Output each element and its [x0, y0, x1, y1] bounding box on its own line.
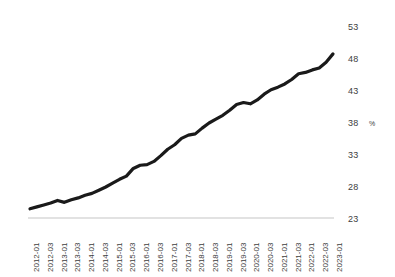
x-tick-label: 2018-03 [212, 243, 220, 272]
x-tick-label: 2014-03 [102, 243, 110, 272]
x-tick-label: 2016-03 [157, 243, 165, 272]
x-tick-label: 2019-03 [240, 243, 248, 272]
line-chart: 23283338434853 2012-012012-032013-012013… [0, 0, 395, 277]
x-tick-label: 2018-01 [198, 243, 206, 272]
x-tick-label: 2015-01 [116, 243, 124, 272]
x-tick-label: 2019-01 [226, 243, 234, 272]
x-axis: 2012-012012-032013-012013-032014-012014-… [0, 0, 395, 277]
x-tick-label: 2021-01 [281, 243, 289, 272]
x-tick-label: 2015-03 [129, 243, 137, 272]
x-tick-label: 2013-01 [61, 243, 69, 272]
x-tick-label: 2014-01 [88, 243, 96, 272]
x-tick-label: 2013-03 [74, 243, 82, 272]
x-tick-label: 2022-01 [308, 243, 316, 272]
x-tick-label: 2021-03 [295, 243, 303, 272]
x-tick-label: 2017-01 [171, 243, 179, 272]
y-axis-unit-label: % [369, 120, 375, 127]
x-tick-label: 2012-03 [47, 243, 55, 272]
x-tick-label: 2016-01 [143, 243, 151, 272]
x-tick-label: 2012-01 [33, 243, 41, 272]
x-tick-label: 2022-03 [322, 243, 330, 272]
x-tick-label: 2020-03 [267, 243, 275, 272]
x-tick-label: 2020-01 [253, 243, 261, 272]
x-tick-label: 2017-03 [185, 243, 193, 272]
x-tick-label: 2023-01 [336, 243, 344, 272]
